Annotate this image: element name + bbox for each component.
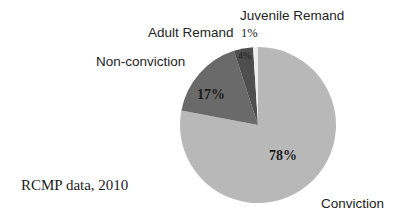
slice-label-juvenile-remand: Juvenile Remand: [240, 9, 344, 24]
slice-label-adult-remand: Adult Remand: [148, 26, 234, 41]
pie-svg: [180, 47, 336, 203]
pie-chart-figure: Juvenile Remand 1% Adult Remand 4% Non-c…: [0, 0, 399, 222]
slice-label-non-conviction: Non-conviction: [96, 55, 185, 70]
source-caption: RCMP data, 2010: [21, 177, 128, 194]
slice-value-conviction: 78%: [269, 149, 297, 163]
slice-value-non-conviction: 17%: [197, 88, 225, 102]
slice-label-conviction: Conviction: [321, 197, 384, 212]
slice-value-juvenile-remand: 1%: [241, 27, 258, 40]
slice-value-adult-remand: 4%: [238, 51, 251, 61]
pie-chart-graphic: [180, 47, 336, 203]
